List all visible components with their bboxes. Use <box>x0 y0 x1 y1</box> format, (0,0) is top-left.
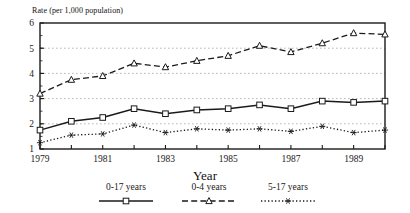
chart-canvas: 123456 197919811983198519871989 0-17 yea… <box>0 0 410 213</box>
series-line-1 <box>40 33 385 93</box>
data-point-markers <box>37 30 388 146</box>
gridlines <box>40 48 385 124</box>
x-axis-ticks: 197919811983198519871989 <box>31 145 386 164</box>
series-markers-2 <box>37 122 388 145</box>
series-line-2 <box>40 125 385 143</box>
chart-figure: Rate (per 1,000 population) Year 123456 … <box>0 0 410 213</box>
legend-marker-2 <box>285 198 291 203</box>
x-tick-label: 1985 <box>219 154 238 164</box>
y-tick-label: 3 <box>29 94 34 104</box>
y-tick-label: 6 <box>29 18 34 28</box>
legend-label-1: 0-4 years <box>191 182 226 192</box>
x-tick-label: 1981 <box>93 154 112 164</box>
y-tick-label: 2 <box>29 119 34 129</box>
data-series-lines <box>40 33 385 143</box>
y-tick-label: 4 <box>29 69 34 79</box>
x-tick-label: 1983 <box>156 154 175 164</box>
legend-label-0: 0-17 years <box>106 182 146 192</box>
y-axis-ticks: 123456 <box>29 18 44 154</box>
x-tick-label: 1989 <box>344 154 363 164</box>
x-tick-label: 1979 <box>31 154 50 164</box>
legend-marker-0 <box>123 198 129 204</box>
series-markers-0 <box>37 98 388 133</box>
y-tick-label: 1 <box>29 144 34 154</box>
y-tick-label: 5 <box>29 44 34 54</box>
series-markers-1 <box>37 30 388 96</box>
x-tick-label: 1987 <box>281 154 300 164</box>
legend-label-2: 5-17 years <box>268 182 308 192</box>
series-line-0 <box>40 101 385 130</box>
chart-legend: 0-17 years0-4 years5-17 years <box>99 182 315 204</box>
